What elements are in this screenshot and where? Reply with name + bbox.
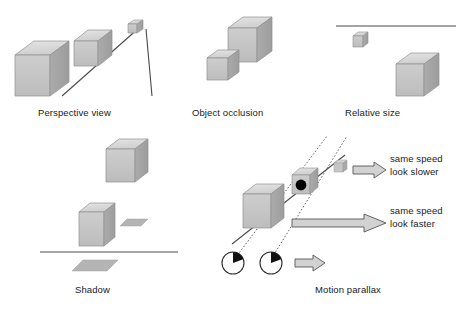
caption-perspective-view: Perspective view [38, 107, 111, 118]
panel-shadow [40, 139, 178, 271]
perspective-line-right [146, 29, 152, 96]
shadow-upper-cube [106, 139, 148, 182]
fixation-dot [296, 180, 307, 191]
caption-relative-size: Relative size [345, 107, 400, 118]
annotation-look-faster-line1: same speed [390, 205, 443, 218]
arrow-near [292, 214, 386, 232]
arrow-observer [295, 255, 325, 271]
panel-occlusion [207, 17, 272, 80]
caption-motion-parallax: Motion parallax [315, 284, 381, 295]
perspective-near-cube [15, 41, 69, 96]
shadow-ground-shadow [72, 260, 118, 271]
perspective-far-cube [128, 20, 143, 33]
relative-size-small-cube [353, 32, 368, 47]
eye-left [222, 252, 244, 274]
panel-perspective [15, 20, 152, 96]
relative-size-large-cube [396, 53, 439, 96]
annotation-look-slower-line2: look slower [390, 166, 443, 179]
panel-motion-parallax [222, 136, 386, 274]
annotation-look-slower: same speed look slower [390, 153, 443, 178]
occlusion-front-cube [207, 50, 239, 80]
caption-object-occlusion: Object occlusion [192, 107, 263, 118]
eye-right [260, 252, 282, 274]
annotation-look-faster-line2: look faster [390, 218, 443, 231]
parallax-fixation-cube [292, 168, 318, 194]
depth-cues-figure: Perspective view Object occlusion Relati… [0, 0, 465, 313]
parallax-near-cube [243, 184, 284, 228]
panel-relative-size [336, 26, 456, 96]
annotation-look-slower-line1: same speed [390, 153, 443, 166]
perspective-middle-cube [74, 30, 112, 66]
shadow-floating-shadow [120, 219, 148, 226]
caption-shadow: Shadow [75, 284, 110, 295]
arrow-far [353, 162, 386, 178]
annotation-look-faster: same speed look faster [390, 205, 443, 230]
parallax-far-cube [334, 160, 347, 172]
shadow-lower-cube [79, 203, 115, 246]
